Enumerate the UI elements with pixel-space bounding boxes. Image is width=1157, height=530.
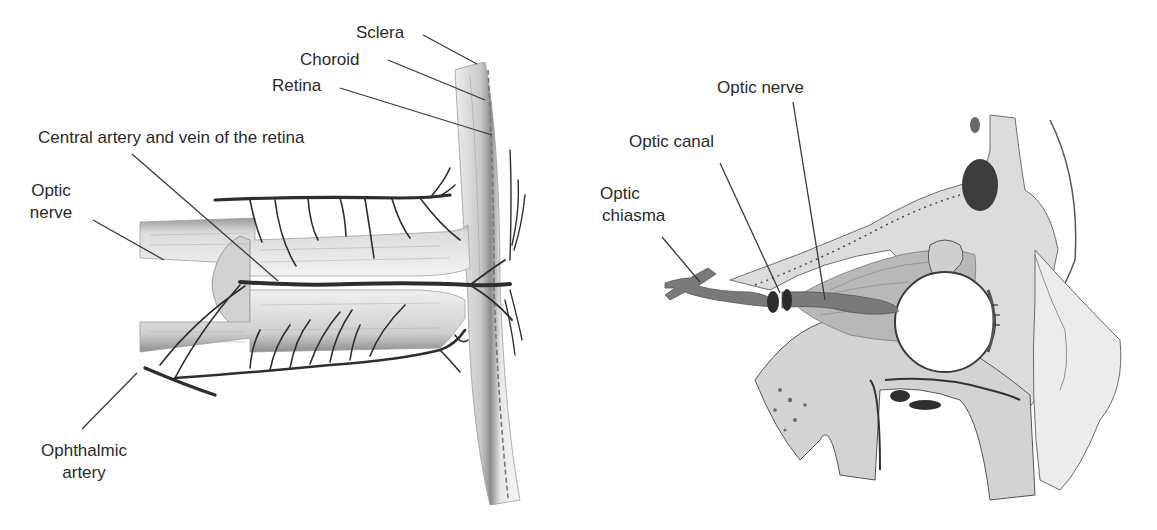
optic-chiasma-label-line1: Optic — [594, 183, 684, 205]
optic-chiasma-label-line2: chiasma — [594, 205, 684, 227]
frontal-sinus — [962, 159, 998, 211]
sclera-label: Sclera — [356, 22, 404, 44]
retina-label: Retina — [272, 75, 321, 97]
optic-nerve-label: Optic nerve — [20, 180, 82, 224]
central-vessels-label: Central artery and vein of the retina — [38, 127, 304, 149]
ophthalmic-artery-label-line1: Ophthalmic — [36, 440, 132, 462]
optic-canal-label: Optic canal — [629, 131, 714, 153]
optic-nerve-label: Optic nerve — [717, 77, 804, 99]
optic-nerve-lower-half — [140, 290, 465, 352]
optic-chiasma-label: Optic chiasma — [594, 183, 684, 227]
zygomatic-bone — [1033, 250, 1120, 490]
choroid-label: Choroid — [300, 49, 360, 71]
sclera-leader-line — [423, 35, 477, 64]
optic-canal-opening — [767, 291, 779, 313]
optic-nerve-label-line2: nerve — [20, 202, 82, 224]
ophthalmic-artery-leader-line — [82, 373, 137, 429]
optic-nerve-section-panel: Sclera Choroid Retina Central artery and… — [0, 0, 580, 530]
ophthalmic-artery-label: Ophthalmic artery — [36, 440, 132, 484]
central-vessels-leader-line — [132, 154, 278, 281]
ophthalmic-artery-label-line2: artery — [36, 462, 132, 484]
optic-chiasma-leader-line — [662, 237, 700, 282]
optic-nerve-label-line1: Optic — [20, 180, 82, 202]
orbit-lateral-view-panel: Optic nerve Optic canal Optic chiasma — [580, 0, 1157, 530]
orbit-lateral-view-illustration — [580, 0, 1157, 530]
